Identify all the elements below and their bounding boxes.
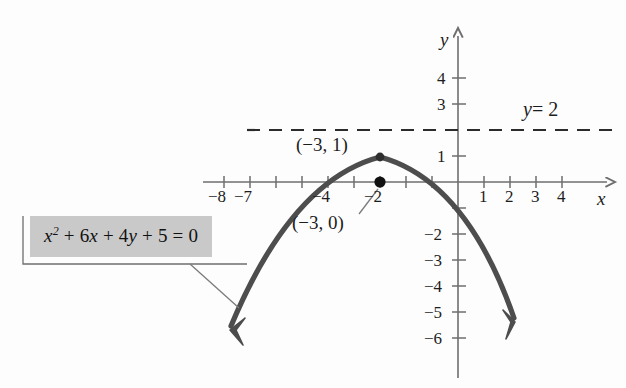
y-axis-label: y [440,30,448,49]
x-tick-label--7: −7 [234,188,252,205]
y-tick-label--2: −2 [424,226,442,243]
directrix-label-variable: y [523,98,532,120]
x-tick-label--8: −8 [208,188,226,205]
equation-variable: x [44,225,53,246]
y-tick-label-4: 4 [437,70,446,87]
y-tick-label--3: −3 [424,252,442,269]
x-tick-label-4: 4 [557,188,566,205]
x-axis-label: x [597,189,605,208]
vertex-label: (−3, 1) [296,135,348,154]
y-tick-label--6: −6 [424,330,442,347]
y-tick-label-3: 3 [437,96,446,113]
y-tick-label--5: −5 [424,304,442,321]
equation-leader-line [190,264,239,308]
y-tick-label-1: 1 [437,148,446,165]
directrix-label-value: = 2 [532,98,558,120]
equation-callout-box: x2 + 6x + 4y + 5 = 0 [30,216,212,257]
vertex-point-marker [376,153,385,162]
x-tick-label--2: −2 [364,188,382,205]
x-tick-label-3: 3 [531,188,540,205]
y-tick-label--4: −4 [424,278,442,295]
x-tick-label-2: 2 [505,188,514,205]
equation-remainder: + 6x + 4y + 5 = 0 [59,225,198,246]
directrix-label: y= 2 [523,99,558,119]
x-intercept-label: (−3, 0) [292,213,344,232]
x-tick-label--4: −4 [312,188,330,205]
x-intercept-point-marker [374,176,385,187]
x-tick-label-1: 1 [479,188,488,205]
parabola-figure: −8 −7 −4 −2 1 2 3 4 4 3 1 −2 −3 −4 −5 −6… [0,0,626,388]
